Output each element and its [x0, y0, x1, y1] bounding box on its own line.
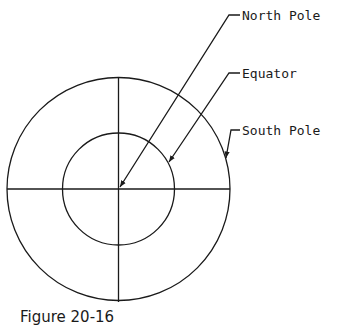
equator-label: Equator: [242, 66, 297, 81]
north-pole-leader: [120, 15, 240, 187]
globe-diagram: North Pole Equator South Pole Figure 20-…: [0, 0, 337, 326]
south-pole-label: South Pole: [242, 123, 320, 138]
figure-caption: Figure 20-16: [20, 308, 114, 326]
south-pole-leader: [226, 130, 240, 158]
north-pole-label: North Pole: [242, 8, 320, 23]
